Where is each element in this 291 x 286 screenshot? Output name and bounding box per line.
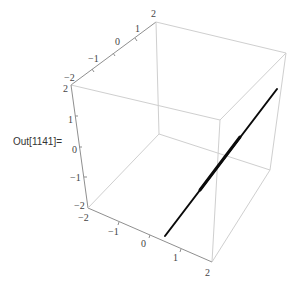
left-tick-label: 0 <box>72 144 77 155</box>
bottom-tick-label: −1 <box>108 226 119 237</box>
bounding-box <box>71 22 286 262</box>
top-tick-label: 1 <box>135 23 140 34</box>
bottom-tick-label: −2 <box>78 212 89 223</box>
bottom-tick-label: 1 <box>173 252 178 263</box>
plot3d-graphic[interactable]: −2 −1 0 1 2 2 1 0 −1 −2 −2 −1 0 1 2 <box>0 0 291 286</box>
plot-curve-thick <box>200 137 240 190</box>
left-tick-label: 1 <box>68 114 73 125</box>
left-tick-label: 2 <box>63 83 68 94</box>
top-tick-label: 0 <box>115 36 120 47</box>
top-tick-label: −1 <box>88 53 99 64</box>
bottom-tick-label: 0 <box>141 238 146 249</box>
top-tick-label: 2 <box>151 8 156 19</box>
left-tick-label: −1 <box>70 172 81 183</box>
left-tick-label: −2 <box>74 200 85 211</box>
bottom-tick-label: 2 <box>205 267 210 278</box>
top-tick-label: −2 <box>64 72 75 83</box>
